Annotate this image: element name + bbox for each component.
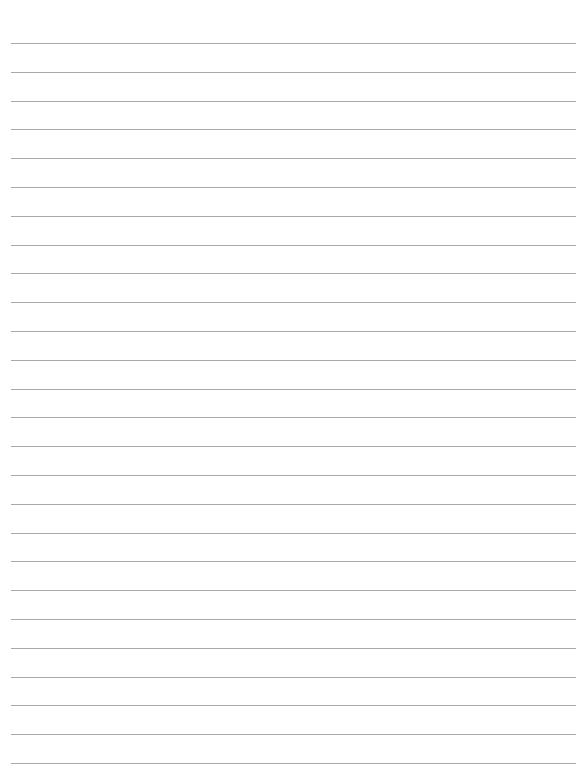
ruled-line <box>11 331 576 332</box>
ruled-line <box>11 216 576 217</box>
ruled-line <box>11 619 576 620</box>
ruled-line <box>11 561 576 562</box>
ruled-line <box>11 446 576 447</box>
ruled-line <box>11 677 576 678</box>
ruled-line <box>11 129 576 130</box>
ruled-line <box>11 360 576 361</box>
ruled-line <box>11 475 576 476</box>
ruled-line <box>11 273 576 274</box>
ruled-line <box>11 417 576 418</box>
ruled-line <box>11 763 576 764</box>
ruled-line <box>11 590 576 591</box>
ruled-line <box>11 72 576 73</box>
ruled-line <box>11 43 576 44</box>
ruled-line <box>11 187 576 188</box>
ruled-line <box>11 302 576 303</box>
ruled-line <box>11 533 576 534</box>
ruled-line <box>11 705 576 706</box>
lined-paper-page <box>0 0 582 774</box>
ruled-line <box>11 648 576 649</box>
ruled-line <box>11 389 576 390</box>
ruled-line <box>11 245 576 246</box>
ruled-line <box>11 734 576 735</box>
ruled-line <box>11 504 576 505</box>
ruled-line <box>11 101 576 102</box>
ruled-line <box>11 158 576 159</box>
